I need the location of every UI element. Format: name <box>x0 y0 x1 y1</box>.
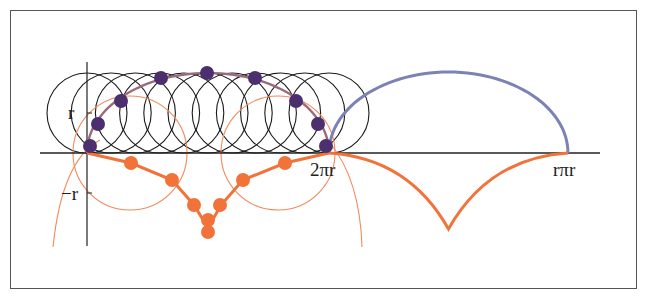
traced-arch-curve <box>87 73 329 153</box>
label-neg-r: −r <box>61 184 78 203</box>
label-r: r <box>68 103 74 122</box>
diagram-canvas: r −r 2πr rπr <box>0 0 647 296</box>
purple-points <box>83 66 333 153</box>
label-2pi-r: 2πr <box>310 160 335 179</box>
rolling-circles <box>47 73 369 153</box>
label-end: rπr <box>553 160 575 179</box>
orange-points <box>124 156 292 239</box>
diagram-svg <box>0 0 647 296</box>
blue-arch-curve <box>329 72 568 153</box>
orange-cusp-curve <box>329 153 568 229</box>
